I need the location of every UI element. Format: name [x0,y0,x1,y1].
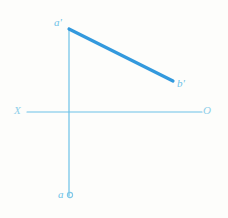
label-o-axis: O [203,105,211,116]
label-a-prime: a' [54,17,62,28]
projection-diagram: a' b' a X O [0,0,228,218]
segment-a-prime-b-prime [69,29,173,81]
label-b-prime: b' [177,78,185,89]
label-x-axis: X [14,105,21,116]
point-a-marker [67,192,72,197]
label-a: a [58,189,64,200]
projection-drawing-canvas [0,0,228,218]
